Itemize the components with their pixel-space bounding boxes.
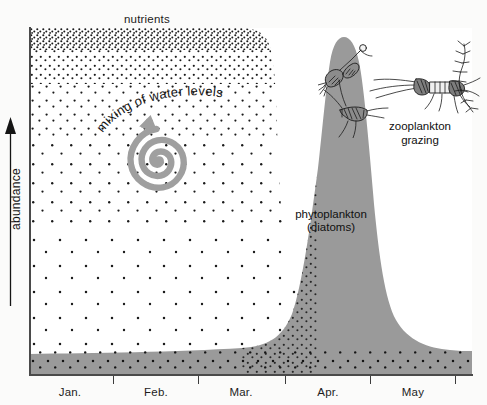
x-axis-label-may: May	[383, 386, 443, 398]
x-axis-label-jan: Jan.	[40, 386, 100, 398]
nutrients-label: nutrients	[124, 13, 170, 25]
x-tick	[285, 376, 286, 384]
phytoplankton-label-line2: (diatoms)	[291, 221, 371, 234]
y-axis-label: abundance	[9, 109, 23, 289]
x-tick	[198, 376, 199, 384]
x-tick	[113, 376, 114, 384]
x-tick	[455, 376, 456, 384]
x-axis-label-apr: Apr.	[298, 386, 358, 398]
y-axis-line	[29, 27, 31, 376]
copepod-upper-left-icon	[318, 45, 372, 96]
x-axis-line	[29, 374, 473, 376]
x-axis-label-mar: Mar.	[211, 386, 271, 398]
zooplankton-illustrations	[318, 38, 486, 138]
x-axis-label-feb: Feb.	[126, 386, 186, 398]
spiny-appendage-icon	[452, 41, 478, 112]
x-tick	[370, 376, 371, 384]
water-mixing-spiral-icon	[103, 112, 207, 208]
phytoplankton-label: phytoplankton (diatoms)	[291, 208, 371, 234]
y-axis-label-group: abundance	[0, 108, 22, 298]
plankton-cycle-figure: Jan. Feb. Mar. Apr. May abundance nutrie…	[0, 0, 487, 405]
phytoplankton-label-line1: phytoplankton	[291, 208, 371, 221]
